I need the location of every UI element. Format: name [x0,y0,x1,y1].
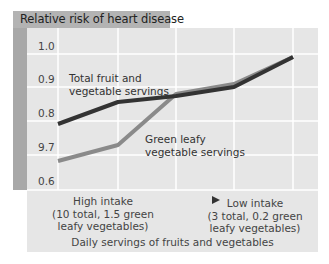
y-tick-0.8: 0.8 [38,107,55,119]
y-tick-0.6: 0.6 [38,175,55,187]
series-green-label-line1: Green leafy [145,133,245,146]
series-green-label-line2: vegetable servings [145,146,245,159]
series-total-label-line1: Total fruit and [69,72,169,85]
high-intake-detail-1: (10 total, 1.5 green [48,208,158,221]
high-intake-title: High intake [48,195,158,208]
low-intake-label: Low intake (3 total, 0.2 green leafy veg… [205,197,305,235]
low-intake-title: Low intake [205,197,305,210]
y-tick-0.9: 0.9 [38,73,55,85]
low-intake-detail-2: leafy vegetables) [205,222,305,235]
series-total-label-line2: vegetable servings [69,85,169,98]
high-intake-label: High intake (10 total, 1.5 green leafy v… [48,195,158,233]
gridlines [27,28,318,190]
series-green-label: Green leafy vegetable servings [145,133,245,159]
x-axis-label: Daily servings of fruits and vegetables [27,236,318,249]
high-intake-detail-2: leafy vegetables) [48,220,158,233]
series-total-label: Total fruit and vegetable servings [69,72,169,98]
y-tick-1.0: 1.0 [38,40,55,52]
low-intake-detail-1: (3 total, 0.2 green [205,210,305,223]
y-tick-0.7: 9.7 [38,141,55,153]
